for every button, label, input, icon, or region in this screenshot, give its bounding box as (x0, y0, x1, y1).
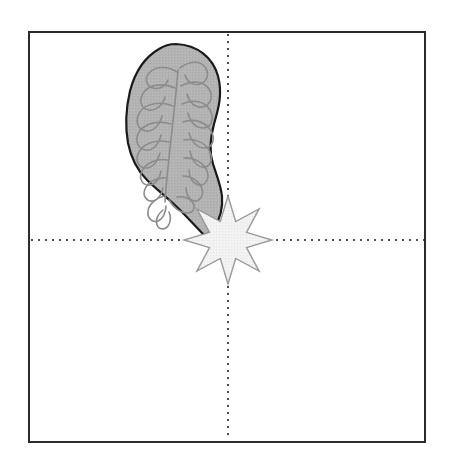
figure-svg (0, 0, 450, 465)
starburst-marker (184, 196, 272, 284)
figure-canvas (0, 0, 450, 465)
